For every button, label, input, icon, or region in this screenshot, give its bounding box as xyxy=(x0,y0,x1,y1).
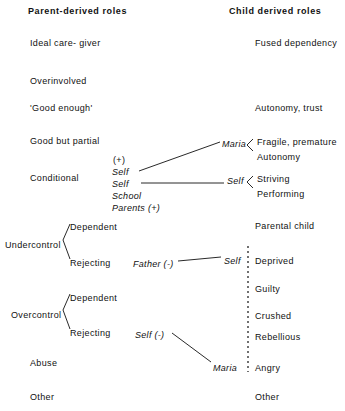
parent-role-item-8: Other xyxy=(30,392,54,402)
child-role-item-11: Angry xyxy=(255,363,280,373)
case-annotation-2: Father (-) xyxy=(133,259,174,269)
connector-selfneg-to-maria-line xyxy=(172,333,211,362)
conditional-factor-item-3: School xyxy=(112,191,141,201)
child-role-item-5: Performing xyxy=(257,189,305,199)
child-role-item-9: Crushed xyxy=(255,311,291,321)
case-annotation-4: Self (-) xyxy=(135,330,164,340)
striving-performing-bracket-upper-arm xyxy=(247,176,253,182)
child-role-item-8: Guilty xyxy=(255,284,280,294)
child-role-item-12: Other xyxy=(255,392,279,402)
column-header-child-roles: Child derived roles xyxy=(229,6,321,16)
case-annotation-0: Maria xyxy=(222,139,246,149)
case-annotation-5: Maria xyxy=(213,363,237,373)
parent-role-item-7: Abuse xyxy=(30,358,57,368)
child-role-item-3: Autonomy xyxy=(257,152,300,162)
parent-role-item-6: Overcontrol xyxy=(11,310,61,320)
connector-self-to-maria-line xyxy=(139,142,220,171)
child-role-item-6: Parental child xyxy=(255,221,314,231)
parent-role-item-0: Ideal care- giver xyxy=(30,38,100,48)
parent-subrole-item-2: Dependent xyxy=(70,293,117,303)
diagram-canvas: Parent-derived roles Child derived roles… xyxy=(0,0,345,411)
striving-performing-bracket-lower-arm xyxy=(247,182,253,188)
child-role-item-7: Deprived xyxy=(255,256,294,266)
parent-subrole-item-3: Rejecting xyxy=(70,328,111,338)
child-role-item-4: Striving xyxy=(257,174,290,184)
child-role-item-0: Fused dependency xyxy=(255,38,337,48)
parent-subrole-item-1: Rejecting xyxy=(70,258,111,268)
column-header-parent-roles: Parent-derived roles xyxy=(28,6,127,16)
parent-role-item-3: Good but partial xyxy=(30,136,100,146)
child-role-item-10: Rebellious xyxy=(255,332,301,342)
parent-role-item-4: Conditional xyxy=(30,173,79,183)
fragile-autonomy-bracket-lower-arm xyxy=(247,145,253,151)
parent-role-item-1: Overinvolved xyxy=(30,76,87,86)
overcontrol-bracket-upper-arm xyxy=(63,294,70,310)
conditional-factor-item-2: Self xyxy=(112,179,129,189)
parent-role-item-2: 'Good enough' xyxy=(30,103,93,113)
parent-role-item-5: Undercontrol xyxy=(5,240,61,250)
conditional-factor-item-1: Self xyxy=(112,167,129,177)
case-annotation-3: Self xyxy=(224,256,241,266)
overcontrol-bracket-lower-arm xyxy=(63,310,70,329)
connector-lines-layer xyxy=(0,0,345,411)
undercontrol-bracket-upper-arm xyxy=(63,224,70,240)
case-annotation-1: Self xyxy=(227,176,244,186)
child-role-item-2: Fragile, premature xyxy=(257,137,337,147)
fragile-autonomy-bracket-upper-arm xyxy=(247,139,253,145)
conditional-factor-item-0: (+) xyxy=(113,155,125,165)
undercontrol-bracket-lower-arm xyxy=(63,240,70,259)
connector-father-to-self-line xyxy=(178,257,221,261)
child-role-item-1: Autonomy, trust xyxy=(255,103,323,113)
conditional-factor-item-4: Parents (+) xyxy=(112,203,160,213)
parent-subrole-item-0: Dependent xyxy=(70,222,117,232)
